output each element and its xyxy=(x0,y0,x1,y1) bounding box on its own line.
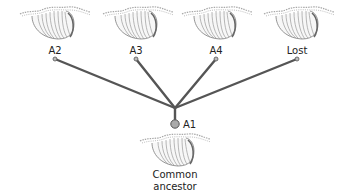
endpoint-a2 xyxy=(53,57,57,61)
label-common: Common xyxy=(152,169,197,181)
label-a1: A1 xyxy=(183,119,196,130)
label-a3: A3 xyxy=(129,45,142,56)
branch-lines xyxy=(0,0,349,194)
endpoint-a3 xyxy=(134,57,138,61)
branch-lost xyxy=(175,59,297,108)
phylogeny-diagram: A2 A3 A4 Lost A1 Common ancestor xyxy=(0,0,349,194)
ribcage-a4-icon xyxy=(182,7,253,39)
endpoint-lost xyxy=(295,57,299,61)
ribcage-a3-icon xyxy=(103,7,174,39)
label-lost: Lost xyxy=(287,45,308,56)
ribcage-a2-icon xyxy=(20,7,91,39)
label-a4: A4 xyxy=(209,45,222,56)
root-node-a1 xyxy=(171,120,179,128)
label-a2: A2 xyxy=(48,45,61,56)
ribcage-ancestor-icon xyxy=(140,134,211,166)
endpoint-a4 xyxy=(214,57,218,61)
label-ancestor: ancestor xyxy=(153,181,196,193)
ribcage-lost-icon xyxy=(264,7,335,39)
